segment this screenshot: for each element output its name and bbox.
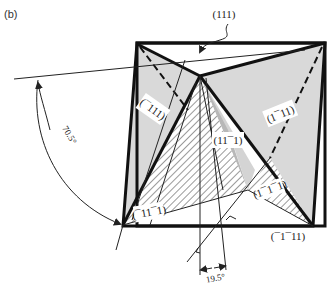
- label-bottom-right-face: (¯1¯11): [271, 230, 306, 243]
- angle-arc-70-5: [37, 80, 120, 224]
- label-top-face: (111): [212, 8, 235, 21]
- label-center-face: (11¯1): [214, 134, 243, 147]
- angle-label-small: 19.5°: [205, 271, 226, 284]
- angle-label-large: 70.5°: [60, 124, 79, 146]
- angle-arrows-19-5: [201, 266, 225, 270]
- octahedron-diagram: (b) (111) (¯111) (1¯11) (11¯1) (¯11¯1) (…: [0, 0, 334, 296]
- panel-label: (b): [4, 8, 17, 20]
